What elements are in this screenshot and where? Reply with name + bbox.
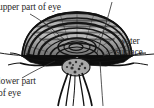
label-lower-part-of-eye-line2: of eye — [0, 88, 21, 99]
label-water-surface-line2: surface — [116, 47, 143, 58]
body-underside — [62, 58, 90, 76]
label-water-surface-line1: water — [119, 36, 140, 47]
label-lower-part-of-eye-line1: lower part — [0, 76, 36, 87]
figure-canvas: upper part of eye water surface lower pa… — [0, 0, 154, 108]
label-upper-part-of-eye: upper part of eye — [0, 2, 61, 13]
vertical-leader-bottom — [100, 62, 103, 106]
